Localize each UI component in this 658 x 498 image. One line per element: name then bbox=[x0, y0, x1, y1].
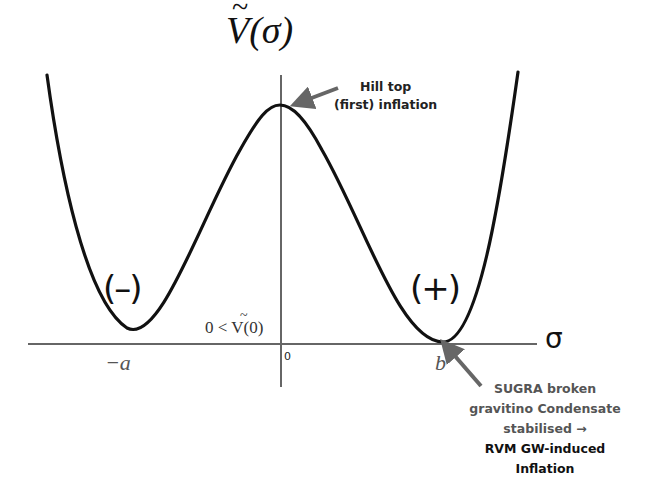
y-axis-tilde: ~ bbox=[232, 0, 248, 24]
potential-diagram: ~ V(σ) Hill top (first) inflation (–) (+… bbox=[0, 0, 658, 498]
v0-condition-label: ~ 0 < V(0) bbox=[205, 318, 263, 338]
tick-zero: 0 bbox=[284, 350, 291, 363]
plus-region-label: (+) bbox=[410, 268, 459, 308]
tick-b: b bbox=[435, 350, 446, 376]
hilltop-arrow bbox=[301, 88, 338, 102]
x-axis-label: σ bbox=[545, 322, 563, 355]
minus-region-label: (–) bbox=[103, 268, 141, 308]
hilltop-annotation: Hill top (first) inflation bbox=[334, 78, 437, 114]
sugra-annotation: SUGRA broken gravitino Condensate stabil… bbox=[438, 379, 652, 479]
tick-minus-a: −a bbox=[105, 350, 131, 376]
y-axis-label: ~ V(σ) bbox=[226, 8, 293, 52]
